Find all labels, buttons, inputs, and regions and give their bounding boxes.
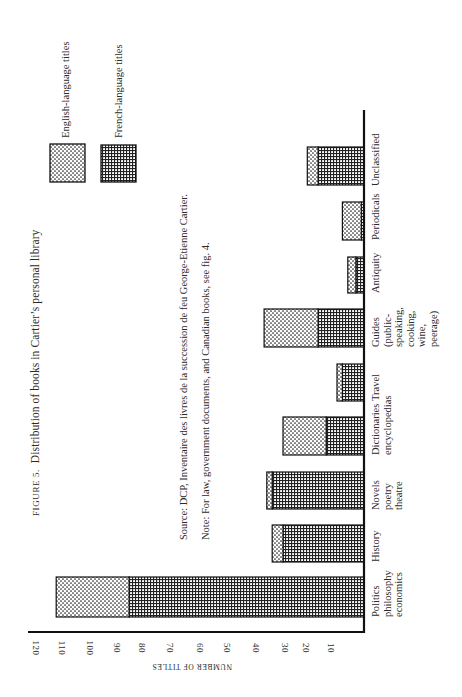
category-label: History: [370, 531, 382, 563]
bar-segment-french: [272, 472, 364, 509]
category-label: Periodicals: [370, 193, 382, 240]
tick-label: 40: [251, 643, 261, 653]
bar-segment-english: [272, 525, 283, 562]
tick-label: 30: [280, 643, 290, 653]
bar-segment-french: [342, 364, 364, 401]
category-label: Unclassified: [370, 134, 382, 187]
bar-segment-french: [318, 309, 364, 347]
bar-segment-english: [307, 147, 318, 185]
legend-label-french: French-language titles: [113, 44, 124, 138]
category-label: Travel: [370, 374, 382, 401]
tick-label: 60: [195, 643, 205, 653]
category-label: Guides (public- speaking, cooking, wine,…: [370, 307, 439, 347]
legend-swatch-english: [50, 144, 85, 182]
bar-segment-french: [129, 577, 364, 617]
bar-segment-english: [342, 202, 361, 240]
tick-label: 120: [31, 641, 41, 656]
bar-segment-french: [318, 147, 364, 185]
category-label: Dictionaries encyclopedias: [370, 396, 393, 455]
category-label: Politics philosophy economics: [370, 570, 405, 617]
source-text: Source: DCP, Inventaire des livres de la…: [178, 194, 189, 540]
tick-label: 70: [165, 643, 175, 653]
category-label: Antiquity: [370, 253, 382, 293]
tick-label: 20: [301, 643, 311, 653]
bar-segment-english: [264, 309, 318, 347]
tick-label: 100: [85, 641, 95, 656]
bar-segment-french: [356, 257, 364, 293]
bar-segment-french: [326, 417, 364, 455]
tick-label: 90: [112, 643, 122, 653]
bar-segment-english: [337, 364, 342, 401]
tick-label: 50: [222, 643, 232, 653]
figure-label: FIGURE 5.: [31, 469, 41, 516]
legend-label-english: English-language titles: [60, 41, 71, 138]
legend-swatch-french: [101, 145, 136, 182]
tick-label: 80: [137, 643, 147, 653]
bar-segment-english: [267, 472, 272, 509]
note-text: Note: For law, government documents, and…: [200, 242, 211, 540]
bar-segment-english: [348, 257, 356, 293]
tick-label: 10: [326, 643, 336, 653]
value-axis-title: NUMBER OF TITLES: [152, 662, 232, 671]
bar-segment-english: [56, 577, 129, 617]
tick-label: 110: [57, 641, 67, 656]
bar-segment-english: [283, 417, 326, 455]
figure-title: FIGURE 5. Distribution of books in Carti…: [29, 230, 41, 516]
category-label: Novels poetry theatre: [370, 480, 405, 510]
figure-title-text: Distribution of books in Cartier’s perso…: [29, 230, 41, 464]
bar-segment-french: [283, 525, 364, 562]
